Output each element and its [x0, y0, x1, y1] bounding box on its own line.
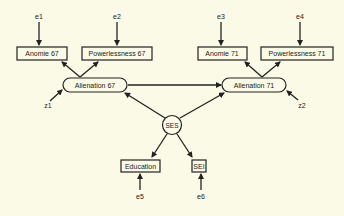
label-e1: e1 [35, 13, 43, 20]
arrow-alienation67-powerlessness67 [80, 62, 98, 77]
label-alienation71: Alienation 71 [234, 82, 275, 89]
arrow-ses-alienation71 [180, 93, 224, 118]
sem-diagram: Anomie 67 Powerlessness 67 Anomie 71 Pow… [0, 0, 344, 216]
node-powerlessness67: Powerlessness 67 [82, 47, 152, 60]
node-alienation67: Alienation 67 [63, 78, 127, 92]
node-powerlessness71: Powerlessness 71 [261, 47, 333, 60]
label-z1: z1 [44, 102, 52, 109]
label-powerlessness71: Powerlessness 71 [269, 50, 326, 57]
label-ses: SES [165, 122, 179, 129]
arrow-alienation71-powerlessness71 [262, 62, 280, 77]
label-anomie71: Anomie 71 [205, 50, 239, 57]
arrow-ses-sei [177, 134, 192, 157]
label-e2: e2 [113, 13, 121, 20]
arrow-ses-alienation67 [125, 93, 165, 118]
label-e4: e4 [296, 13, 304, 20]
label-anomie67: Anomie 67 [25, 50, 59, 57]
label-education: Education [125, 163, 156, 170]
arrow-alienation71-anomie71 [245, 62, 262, 77]
label-powerlessness67: Powerlessness 67 [89, 50, 146, 57]
arrow-ses-education [152, 134, 167, 157]
arrow-z1-alienation67 [50, 90, 62, 101]
label-e6: e6 [197, 193, 205, 200]
node-education: Education [121, 160, 160, 172]
node-sei: SEI [192, 160, 206, 172]
node-anomie67: Anomie 67 [17, 47, 67, 60]
label-z2: z2 [298, 102, 306, 109]
arrow-z2-alienation71 [287, 91, 298, 100]
label-e5: e5 [136, 193, 144, 200]
arrow-alienation67-anomie67 [62, 62, 80, 77]
node-ses: SES [163, 116, 182, 135]
label-alienation67: Alienation 67 [75, 82, 116, 89]
label-e3: e3 [217, 13, 225, 20]
label-sei: SEI [193, 163, 204, 170]
node-alienation71: Alienation 71 [222, 78, 286, 92]
node-anomie71: Anomie 71 [198, 47, 247, 60]
